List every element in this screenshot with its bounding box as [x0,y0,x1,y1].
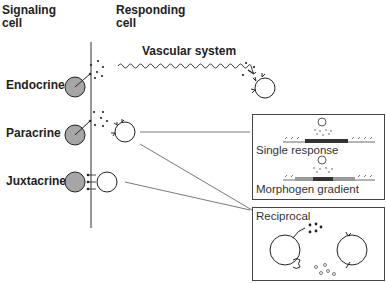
paracrine-signaling-cell [65,120,91,145]
reciprocal-label: Reciprocal [256,210,310,222]
single-response-label: Single response [256,144,338,156]
endocrine-signaling-cell [65,73,91,97]
juxtacrine-responding-cell [97,172,117,192]
paracrine-responding-cell [111,119,135,142]
signaling-diagram [0,0,386,283]
paracrine-molecules [93,111,108,127]
endocrine-molecules [90,60,104,79]
connector-lines [125,132,252,210]
juxtacrine-signaling-cell [65,172,85,192]
endocrine-responding-cell [251,73,275,98]
vascular-wave [118,64,256,73]
morphogen-gradient-label: Morphogen gradient [256,183,359,195]
